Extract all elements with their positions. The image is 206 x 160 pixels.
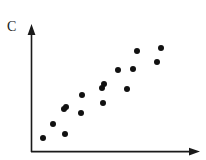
data-point [158,45,164,51]
data-point [50,121,56,127]
data-point [124,86,130,92]
data-point [134,48,140,54]
data-point-group [40,45,164,141]
x-axis-arrow-icon [189,148,200,156]
scatter-plot-figure: C [0,0,206,160]
data-point [115,67,121,73]
data-point [101,81,107,87]
y-axis-arrow-icon [28,24,36,35]
data-point [40,135,46,141]
data-point [78,110,84,116]
plot-canvas [0,0,206,160]
data-point [79,92,85,98]
data-point [62,131,68,137]
data-point [154,59,160,65]
axes-group [28,24,200,155]
data-point [63,104,69,110]
data-point [130,66,136,72]
data-point [100,100,106,106]
